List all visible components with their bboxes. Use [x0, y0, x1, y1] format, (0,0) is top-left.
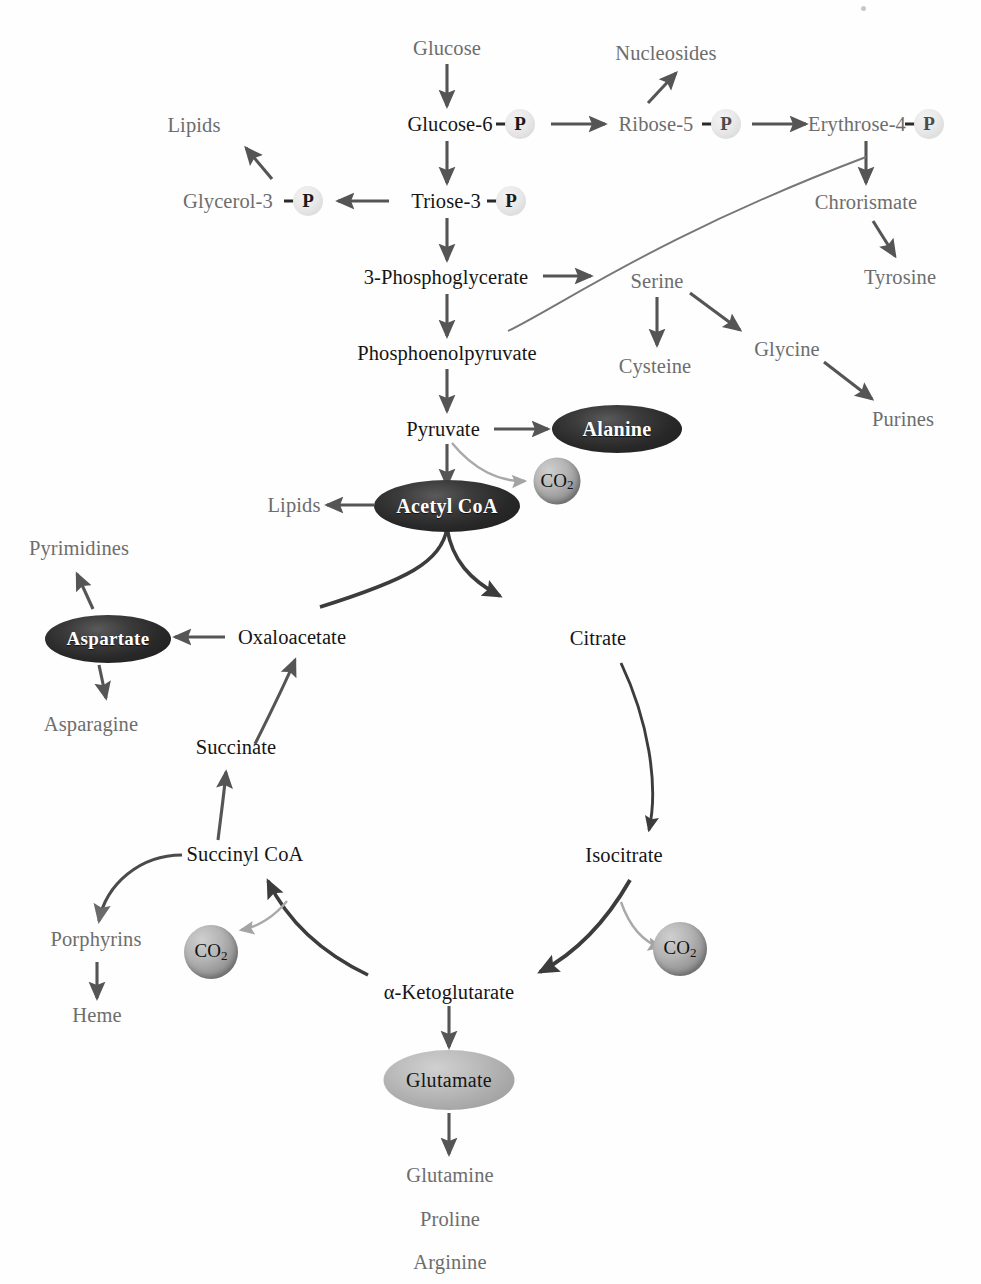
phosphate-bubble-erythrose4: P: [914, 109, 944, 139]
node-proline[interactable]: Proline: [420, 1209, 480, 1230]
node-glutamate[interactable]: Glutamate: [384, 1050, 515, 1110]
node-ribose-5-phosphate[interactable]: Ribose-5: [619, 114, 694, 135]
node-citrate[interactable]: Citrate: [570, 628, 626, 649]
co2-sphere-pyruvate: CO2: [534, 458, 581, 505]
node-glycine[interactable]: Glycine: [754, 339, 820, 360]
node-glycerol-3-phosphate[interactable]: Glycerol-3: [183, 191, 273, 212]
page-speck: [861, 6, 866, 11]
phosphate-bubble-triose3: P: [496, 186, 526, 216]
node-phosphoenolpyruvate[interactable]: Phosphoenolpyruvate: [357, 343, 537, 364]
co2-sphere-isocitrate: CO2: [653, 922, 707, 976]
node-asparagine[interactable]: Asparagine: [44, 714, 138, 735]
node-oxaloacetate[interactable]: Oxaloacetate: [238, 627, 346, 648]
node-glucose[interactable]: Glucose: [413, 38, 481, 59]
phosphate-bubble-glucose6: P: [505, 109, 535, 139]
node-lipids-acetyl[interactable]: Lipids: [268, 495, 321, 516]
node-succinate[interactable]: Succinate: [196, 737, 277, 758]
node-succinyl-coa[interactable]: Succinyl CoA: [187, 844, 304, 865]
node-porphyrins[interactable]: Porphyrins: [51, 929, 142, 950]
node-isocitrate[interactable]: Isocitrate: [585, 845, 662, 866]
aspartate-label: Aspartate: [67, 628, 150, 650]
node-cysteine[interactable]: Cysteine: [619, 356, 692, 377]
node-acetyl-coa[interactable]: Acetyl CoA: [374, 480, 520, 532]
phosphate-bubble-glycerol3: P: [293, 186, 323, 216]
node-nucleosides[interactable]: Nucleosides: [615, 43, 716, 64]
acetyl-coa-label: Acetyl CoA: [396, 495, 497, 518]
node-tyrosine[interactable]: Tyrosine: [864, 267, 936, 288]
node-arginine[interactable]: Arginine: [413, 1252, 486, 1273]
alanine-label: Alanine: [583, 418, 652, 441]
glutamate-label: Glutamate: [406, 1069, 492, 1092]
node-triose-3-phosphate[interactable]: Triose-3: [411, 191, 481, 212]
node-pyrimidines[interactable]: Pyrimidines: [29, 538, 129, 559]
phosphate-bubble-ribose5: P: [711, 109, 741, 139]
co2-label: CO2: [664, 937, 697, 961]
node-alanine[interactable]: Alanine: [552, 405, 682, 453]
co2-label: CO2: [541, 469, 574, 493]
node-erythrose-4-phosphate[interactable]: Erythrose-4: [808, 114, 906, 135]
pathway-diagram: Glucose Glucose-6 P Nucleosides Ribose-5…: [0, 0, 981, 1284]
node-heme[interactable]: Heme: [72, 1005, 121, 1026]
node-aspartate[interactable]: Aspartate: [45, 615, 171, 663]
node-glutamine[interactable]: Glutamine: [406, 1165, 493, 1186]
node-pyruvate[interactable]: Pyruvate: [406, 419, 480, 440]
node-lipids-glycerol[interactable]: Lipids: [168, 115, 221, 136]
node-purines[interactable]: Purines: [872, 409, 934, 430]
co2-label: CO2: [195, 940, 228, 964]
node-chrorismate[interactable]: Chrorismate: [815, 192, 917, 213]
node-alpha-ketoglutarate[interactable]: α-Ketoglutarate: [384, 982, 515, 1003]
node-glucose-6-phosphate[interactable]: Glucose-6: [407, 114, 492, 135]
node-serine[interactable]: Serine: [631, 271, 684, 292]
node-3-phosphoglycerate[interactable]: 3-Phosphoglycerate: [364, 267, 529, 288]
co2-sphere-succinyl: CO2: [184, 925, 238, 979]
